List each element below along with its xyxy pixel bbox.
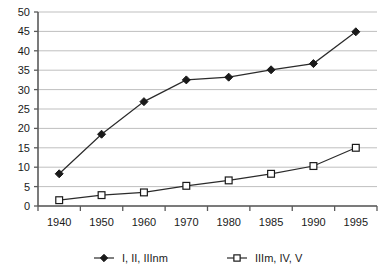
data-point-marker-square xyxy=(352,144,359,151)
data-point-marker-square xyxy=(56,197,63,204)
x-tick-label: 1950 xyxy=(89,216,113,228)
legend-label: IIIm, IV, V xyxy=(255,252,303,264)
data-point-marker-square xyxy=(141,189,148,196)
data-point-marker-square xyxy=(268,170,275,177)
chart-canvas: 05101520253035404550 1940195019601970198… xyxy=(0,0,387,274)
data-point-marker-square xyxy=(234,255,240,261)
x-tick-label: 1980 xyxy=(216,216,240,228)
data-point-marker-square xyxy=(98,192,105,199)
y-tick-label: 15 xyxy=(18,142,30,154)
x-tick-label: 1960 xyxy=(132,216,156,228)
y-tick-label: 5 xyxy=(24,181,30,193)
line-chart: 05101520253035404550 1940195019601970198… xyxy=(0,0,387,274)
y-tick-label: 40 xyxy=(18,45,30,57)
y-tick-label: 35 xyxy=(18,64,30,76)
y-tick-label: 20 xyxy=(18,122,30,134)
x-tick-label: 1995 xyxy=(344,216,368,228)
legend-label: I, II, IIInm xyxy=(122,252,168,264)
y-tick-label: 0 xyxy=(24,200,30,212)
chart-background xyxy=(0,0,387,274)
y-tick-label: 45 xyxy=(18,25,30,37)
y-tick-label: 50 xyxy=(18,6,30,18)
data-point-marker-square xyxy=(225,177,232,184)
x-tick-label: 1940 xyxy=(47,216,71,228)
y-tick-label: 30 xyxy=(18,84,30,96)
x-tick-label: 1970 xyxy=(174,216,198,228)
x-tick-label: 1985 xyxy=(259,216,283,228)
y-tick-label: 10 xyxy=(18,161,30,173)
data-point-marker-square xyxy=(310,163,317,170)
y-tick-label: 25 xyxy=(18,103,30,115)
x-tick-label: 1990 xyxy=(301,216,325,228)
data-point-marker-square xyxy=(183,182,190,189)
